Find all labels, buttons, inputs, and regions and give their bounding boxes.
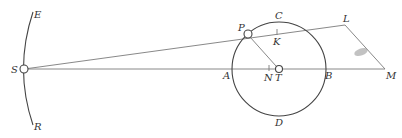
label-B: B xyxy=(324,70,332,81)
label-C: C xyxy=(275,10,283,21)
label-R: R xyxy=(33,121,42,132)
label-T: T xyxy=(275,72,283,83)
label-A: A xyxy=(222,70,230,81)
label-S: S xyxy=(11,64,18,75)
label-N: N xyxy=(263,72,274,83)
label-E: E xyxy=(33,9,42,20)
label-L: L xyxy=(342,13,350,24)
label-K: K xyxy=(272,36,281,47)
point-S-circle xyxy=(20,65,28,73)
point-P-circle xyxy=(244,30,252,38)
line-LM xyxy=(345,25,385,69)
label-D: D xyxy=(274,117,283,128)
line-SL xyxy=(28,25,345,69)
label-P: P xyxy=(237,22,245,33)
label-M: M xyxy=(385,70,397,81)
diagram-canvas: E S R P C K L A N T B M D xyxy=(0,0,402,138)
